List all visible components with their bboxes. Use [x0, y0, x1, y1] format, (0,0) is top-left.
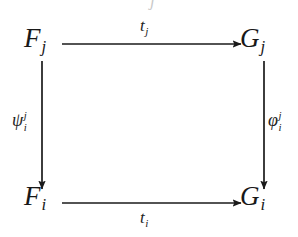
node-bottom-left: Fi	[24, 183, 46, 214]
node-top-left-subscript: j	[42, 37, 47, 56]
edge-label-left-subscript: i	[24, 122, 27, 133]
node-bottom-right-subscript: i	[261, 195, 266, 214]
edge-label-top-subscript: j	[145, 25, 148, 37]
node-top-right-base: G	[240, 23, 260, 53]
edge-label-right-subscript: i	[278, 122, 281, 133]
node-top-right: Gj	[240, 25, 265, 56]
node-bottom-left-base: F	[24, 181, 41, 211]
edge-label-left-base: ψ	[12, 110, 23, 130]
edge-label-bottom: ti	[140, 209, 148, 229]
top-edge-crop-artifact: j	[150, 0, 155, 11]
edge-label-right-scripts: ji	[278, 112, 281, 134]
edge-label-left-scripts: ji	[24, 112, 27, 134]
edge-label-right-base: φ	[268, 110, 278, 130]
edge-label-right: φji	[268, 111, 281, 133]
node-top-left-base: F	[24, 23, 41, 53]
edge-label-right-superscript: j	[278, 110, 281, 121]
edge-label-top: tj	[140, 17, 148, 37]
diagram-canvas: j Fj Gj Fi Gi tj ti ψji φji	[0, 0, 298, 237]
node-top-left: Fj	[24, 25, 46, 56]
node-bottom-left-subscript: i	[42, 195, 47, 214]
edge-label-left: ψji	[12, 111, 27, 133]
node-bottom-right: Gi	[240, 183, 265, 214]
edge-label-bottom-subscript: i	[145, 217, 148, 229]
edge-label-left-superscript: j	[24, 110, 27, 121]
node-top-right-subscript: j	[261, 37, 266, 56]
node-bottom-right-base: G	[240, 181, 260, 211]
